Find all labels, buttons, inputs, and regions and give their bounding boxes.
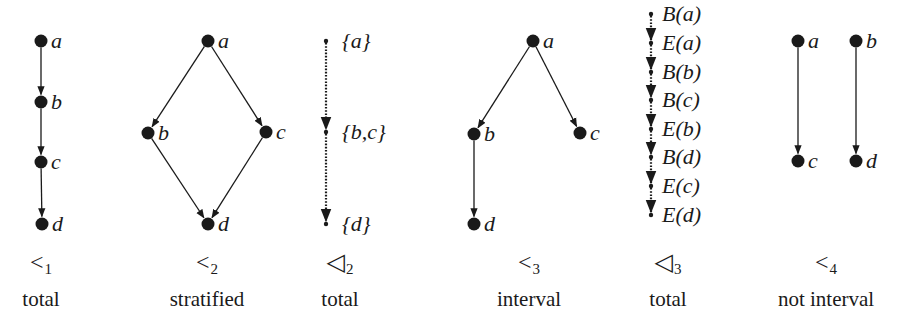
node-label-p5-Ba: B(a) — [662, 1, 701, 26]
order-caption-p5: total — [649, 287, 686, 311]
node-p3-bc — [324, 130, 328, 134]
node-p2-c — [260, 126, 273, 139]
node-p4-a — [527, 35, 540, 48]
node-label-p2-c: c — [276, 119, 286, 144]
edge-p2-b-d — [152, 138, 204, 217]
node-p2-a — [202, 35, 215, 48]
node-p6-a — [792, 35, 805, 48]
labels-layer: abcdabcd{a}{b,c}{d}abcdB(a)E(a)B(b)B(c)E… — [51, 1, 878, 236]
node-label-p1-d: d — [52, 211, 64, 236]
node-p5-Eb — [649, 127, 653, 131]
node-label-p6-a: a — [808, 28, 819, 53]
node-p5-Bb — [649, 70, 653, 74]
node-label-p3-d: {d} — [342, 211, 371, 236]
order-caption-p1: total — [22, 287, 59, 311]
edge-p2-a-b — [152, 46, 204, 126]
node-p1-b — [35, 96, 48, 109]
order-symbol-p1: <1 — [30, 250, 52, 281]
node-p5-Ec — [649, 184, 653, 188]
order-symbol-p6: <4 — [815, 250, 837, 281]
edge-p2-c-d — [212, 137, 263, 217]
node-p5-Bc — [649, 98, 653, 102]
node-label-p6-c: c — [808, 148, 818, 173]
node-label-p5-Eb: E(b) — [661, 116, 701, 141]
node-p1-c — [35, 156, 48, 169]
order-caption-p4: interval — [497, 287, 561, 311]
order-symbol-p5: ◁3 — [655, 250, 682, 281]
node-p1-d — [36, 218, 49, 231]
node-p3-d — [324, 222, 328, 226]
node-label-p4-b: b — [484, 121, 495, 146]
order-caption-p2: stratified — [170, 287, 245, 311]
node-label-p1-c: c — [51, 149, 61, 174]
order-caption-p3: total — [321, 287, 358, 311]
node-label-p3-a: {a} — [342, 28, 371, 53]
node-label-p3-bc: {b,c} — [342, 119, 386, 144]
node-p6-b — [850, 35, 863, 48]
order-caption-p6: not interval — [778, 287, 874, 311]
order-symbol-p2: <2 — [196, 250, 218, 281]
node-label-p5-Bb: B(b) — [662, 59, 701, 84]
node-label-p5-Ea: E(a) — [661, 30, 701, 55]
edge-p4-a-c — [536, 47, 577, 127]
node-p2-b — [142, 127, 155, 140]
node-label-p5-Ec: E(c) — [661, 173, 700, 198]
edge-p1-c-d — [41, 168, 42, 216]
node-p6-d — [850, 155, 863, 168]
node-p5-Ea — [649, 41, 653, 45]
node-p5-Ba — [649, 12, 653, 16]
node-label-p5-Bd: B(d) — [662, 144, 701, 169]
node-label-p4-c: c — [590, 120, 600, 145]
node-label-p5-Bc: B(c) — [662, 87, 700, 112]
node-p2-d — [202, 218, 215, 231]
node-label-p5-Ed: E(d) — [661, 202, 701, 227]
node-label-p1-a: a — [51, 28, 62, 53]
node-label-p2-d: d — [218, 211, 230, 236]
graph-canvas: abcdabcd{a}{b,c}{d}abcdB(a)E(a)B(b)B(c)E… — [0, 0, 916, 327]
node-label-p1-b: b — [51, 89, 62, 114]
order-symbol-p3: ◁2 — [327, 250, 354, 281]
node-p5-Ed — [649, 213, 653, 217]
node-p5-Bd — [649, 155, 653, 159]
node-label-p2-b: b — [158, 120, 169, 145]
order-diagrams-figure: abcdabcd{a}{b,c}{d}abcdB(a)E(a)B(b)B(c)E… — [0, 0, 916, 327]
node-p3-a — [324, 39, 328, 43]
node-p4-b — [468, 128, 481, 141]
order-symbol-p4: <3 — [518, 250, 540, 281]
node-label-p4-a: a — [543, 28, 554, 53]
edge-p2-a-c — [211, 46, 261, 125]
edges-layer — [41, 16, 856, 221]
edge-p4-a-b — [478, 46, 530, 127]
node-p4-d — [468, 218, 481, 231]
node-p4-c — [574, 127, 587, 140]
node-p6-c — [792, 155, 805, 168]
node-label-p4-d: d — [484, 211, 496, 236]
node-label-p6-d: d — [866, 148, 878, 173]
node-p1-a — [35, 35, 48, 48]
node-label-p2-a: a — [218, 28, 229, 53]
node-label-p6-b: b — [866, 28, 877, 53]
